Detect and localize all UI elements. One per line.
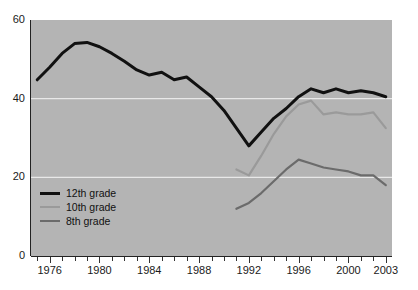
x-tick-minor <box>311 257 312 261</box>
x-tick-minor <box>37 257 38 261</box>
series-line <box>37 42 386 145</box>
legend-item: 10th grade <box>40 200 116 214</box>
x-tick-minor <box>137 257 138 261</box>
x-tick-minor <box>286 257 287 261</box>
series-line <box>236 160 385 209</box>
x-tick-label: 1984 <box>137 265 161 276</box>
x-tick-minor <box>373 257 374 261</box>
x-tick-major <box>299 257 300 263</box>
y-tick-label: 60 <box>13 14 25 25</box>
y-axis-line <box>30 20 31 256</box>
x-tick-minor <box>87 257 88 261</box>
x-tick-minor <box>224 257 225 261</box>
x-tick-minor <box>274 257 275 261</box>
x-tick-minor <box>212 257 213 261</box>
legend-label: 10th grade <box>66 200 116 214</box>
x-tick-minor <box>162 257 163 261</box>
x-tick-major <box>99 257 100 263</box>
x-tick-minor <box>324 257 325 261</box>
legend-swatch-line-icon <box>40 220 60 222</box>
x-tick-minor <box>236 257 237 261</box>
x-tick-label: 1996 <box>286 265 310 276</box>
legend-label: 8th grade <box>66 214 110 228</box>
legend-item: 8th grade <box>40 214 116 228</box>
chart-title-fragment <box>0 0 418 5</box>
y-tick-label: 20 <box>13 171 25 182</box>
x-tick-minor <box>261 257 262 261</box>
x-tick-label: 1992 <box>237 265 261 276</box>
chart-figure: 0204060 19761980198419881992199620002003… <box>0 0 418 290</box>
x-tick-major <box>386 257 387 263</box>
x-tick-label: 1988 <box>187 265 211 276</box>
x-tick-major <box>249 257 250 263</box>
x-tick-major <box>199 257 200 263</box>
x-tick-major <box>149 257 150 263</box>
y-tick-label: 40 <box>13 93 25 104</box>
x-tick-minor <box>361 257 362 261</box>
x-tick-minor <box>62 257 63 261</box>
x-tick-minor <box>124 257 125 261</box>
x-tick-label: 1980 <box>87 265 111 276</box>
y-axis: 0204060 <box>0 0 31 276</box>
legend-item: 12th grade <box>40 186 116 200</box>
x-tick-minor <box>112 257 113 261</box>
x-tick-label: 1976 <box>37 265 61 276</box>
x-tick-minor <box>336 257 337 261</box>
x-tick-minor <box>187 257 188 261</box>
x-tick-label: 2000 <box>336 265 360 276</box>
y-tick-label: 0 <box>19 250 25 261</box>
legend-swatch-line-icon <box>40 192 60 195</box>
legend-swatch-line-icon <box>40 206 60 208</box>
x-tick-major <box>348 257 349 263</box>
x-tick-minor <box>75 257 76 261</box>
x-tick-major <box>50 257 51 263</box>
legend-label: 12th grade <box>66 186 116 200</box>
x-tick-minor <box>174 257 175 261</box>
chart-legend: 12th grade10th grade8th grade <box>40 186 116 228</box>
x-tick-label: 2003 <box>374 265 398 276</box>
